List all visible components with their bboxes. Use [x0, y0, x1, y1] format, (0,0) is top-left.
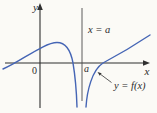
origin-label: 0	[32, 65, 37, 76]
curve-label: y = f(x)	[113, 80, 146, 92]
a-point-label: a	[84, 63, 89, 74]
x-axis-label: x	[144, 65, 150, 77]
graph-canvas: y x 0 x = a a y = f(x)	[0, 0, 157, 113]
y-axis-label: y	[32, 1, 38, 13]
leader-arrowhead-icon	[98, 72, 102, 76]
curve-right-branch	[86, 35, 150, 107]
function-graph-figure: y x 0 x = a a y = f(x)	[0, 0, 157, 113]
leader-line	[101, 74, 112, 82]
asymptote-label: x = a	[87, 24, 110, 35]
y-axis-arrowhead-icon	[37, 3, 43, 10]
